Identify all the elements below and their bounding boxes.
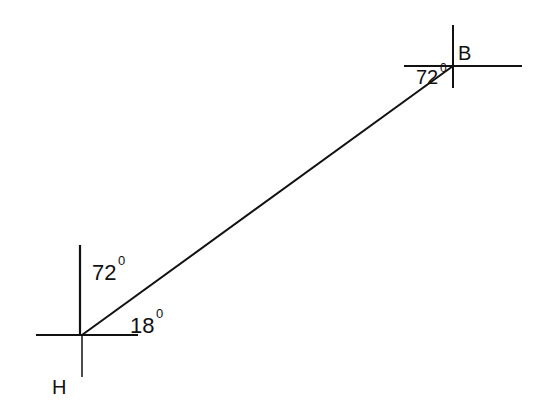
point-b-label: B bbox=[458, 42, 471, 64]
angle-h-horizontal-degree: 0 bbox=[156, 306, 163, 321]
bearing-diagram: B H 72 0 72 0 18 0 bbox=[0, 0, 550, 412]
point-h-label: H bbox=[52, 376, 66, 398]
angle-h-horizontal-value: 18 bbox=[130, 313, 154, 338]
angle-h-vertical-value: 72 bbox=[92, 260, 116, 285]
angle-b-degree: 0 bbox=[440, 61, 447, 75]
angle-b-value: 72 bbox=[416, 66, 438, 88]
angle-h-vertical-degree: 0 bbox=[118, 253, 125, 268]
path-h-to-b bbox=[82, 66, 453, 335]
